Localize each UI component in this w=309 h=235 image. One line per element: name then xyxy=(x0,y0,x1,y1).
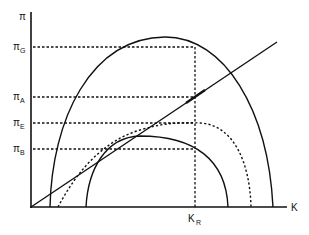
small-arch-curve xyxy=(86,136,228,207)
svg-text:R: R xyxy=(196,219,201,226)
svg-text:π: π xyxy=(13,143,20,154)
ray-from-origin xyxy=(31,42,277,207)
svg-text:G: G xyxy=(20,47,25,54)
pi-g-label: π G xyxy=(13,41,25,54)
svg-text:K: K xyxy=(188,213,195,224)
k-r-label: K R xyxy=(188,213,201,226)
svg-text:π: π xyxy=(13,117,20,128)
svg-text:E: E xyxy=(20,123,25,130)
pi-e-label: π E xyxy=(13,117,25,130)
svg-text:π: π xyxy=(13,91,20,102)
pi-b-label: π B xyxy=(13,143,25,156)
x-axis-label: K xyxy=(291,202,298,213)
svg-text:B: B xyxy=(20,149,25,156)
y-axis-label: π xyxy=(19,11,26,22)
large-arch-curve xyxy=(50,37,273,207)
economic-diagram: π K π G π A π E π B K R xyxy=(0,0,309,235)
svg-text:A: A xyxy=(20,97,25,104)
svg-text:π: π xyxy=(13,41,20,52)
pi-a-label: π A xyxy=(13,91,25,104)
